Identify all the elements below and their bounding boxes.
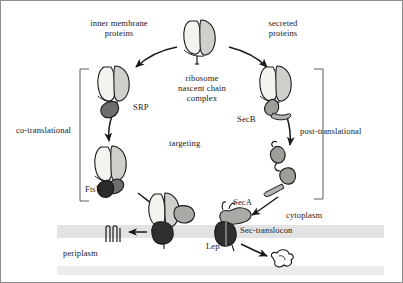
label-secb: SecB xyxy=(237,114,256,124)
label-co-translational: co-translational xyxy=(16,125,71,135)
label-seca: SecA xyxy=(233,197,252,207)
unfolded-polypeptide xyxy=(264,141,295,196)
label-post-translational: post-translational xyxy=(300,126,361,136)
outer-membrane-band xyxy=(57,266,384,275)
srp-blob xyxy=(101,101,119,117)
secb-chain-tail xyxy=(271,113,291,120)
left-bracket xyxy=(80,69,89,201)
arrow-chain-to-seca xyxy=(252,197,278,215)
label-cytoplasm: cytoplasm xyxy=(286,210,322,220)
label-targeting: targeting xyxy=(169,138,200,148)
diagram-canvas xyxy=(1,1,403,283)
label-ribosome-nascent-chain-complex: ribosome nascent chain complex xyxy=(153,73,251,104)
nascent-chain-lobe xyxy=(174,206,194,223)
arrow-rnc-to-secb xyxy=(229,47,267,67)
folded-secreted-protein xyxy=(271,250,293,267)
label-inner-membrane-proteins: inner membrane proteins xyxy=(63,18,175,38)
translocon-left xyxy=(152,222,173,244)
ribosome-nascent-chain-complex xyxy=(184,20,215,64)
secb-ribosome-complex xyxy=(260,66,291,120)
label-sec-translocon: Sec-translocon xyxy=(240,225,292,235)
label-ftsy: FtsY xyxy=(85,184,102,194)
label-lep: Lep xyxy=(206,241,220,251)
cotranslational-translocon-complex xyxy=(149,193,195,249)
secb-blob xyxy=(265,99,279,115)
label-srp: SRP xyxy=(133,102,149,112)
arrow-rnc-to-srp xyxy=(136,47,177,67)
arrow-seca-to-folded-protein xyxy=(241,244,267,256)
label-periplasm: periplasm xyxy=(63,248,98,258)
figure-container: inner membrane proteins secreted protein… xyxy=(0,0,403,283)
arrow-secb-to-chain xyxy=(287,117,290,145)
label-secreted-proteins: secreted proteins xyxy=(241,18,325,38)
srp-ribosome-complex xyxy=(98,66,129,118)
